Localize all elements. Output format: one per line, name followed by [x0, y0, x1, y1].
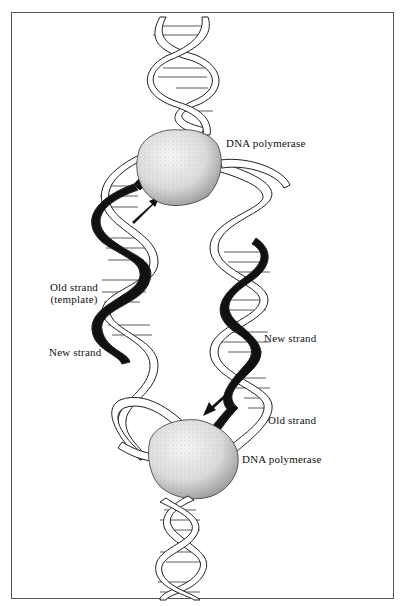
label-old-strand-right: Old strand — [268, 414, 316, 426]
label-new-strand-left: New strand — [49, 346, 101, 358]
label-dna-polymerase-top: DNA polymerase — [226, 137, 305, 149]
bottom-double-helix — [156, 496, 207, 600]
label-old-strand-line2: (template) — [48, 293, 100, 305]
label-old-strand-template: Old strand (template) — [48, 281, 100, 305]
dna-polymerase-bottom — [149, 420, 239, 499]
label-new-strand-right: New strand — [264, 332, 316, 344]
label-old-strand-line1: Old strand — [48, 281, 100, 293]
label-dna-polymerase-bottom: DNA polymerase — [242, 453, 321, 465]
right-daughter-helix — [206, 160, 272, 452]
dna-polymerase-top — [137, 130, 221, 206]
top-double-helix — [147, 17, 219, 135]
